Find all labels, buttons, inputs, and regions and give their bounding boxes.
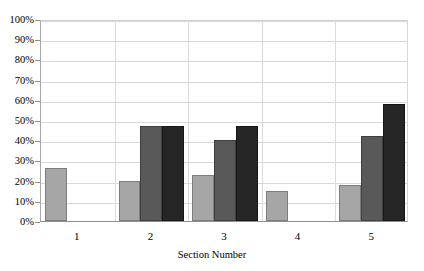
- y-axis-tick-label: 80%: [15, 55, 34, 66]
- y-axis-tick-label: 0%: [20, 217, 34, 228]
- x-axis-tick-label: 4: [295, 231, 301, 242]
- y-axis-tick-label: 10%: [15, 197, 34, 208]
- bar: [45, 168, 67, 221]
- y-axis-tick-label: 50%: [15, 116, 34, 127]
- bar: [236, 126, 258, 221]
- x-axis-tick-label: 5: [368, 231, 374, 242]
- y-axis-tick-label: 60%: [15, 96, 34, 107]
- y-axis-tick-label: 70%: [15, 75, 34, 86]
- clipped-chart-title: [0, 0, 424, 5]
- bar: [383, 104, 405, 221]
- bars-layer: [41, 21, 407, 221]
- x-axis-tick-label: 3: [221, 231, 227, 242]
- x-axis-tick-label: 2: [148, 231, 154, 242]
- y-axis-tick-label: 30%: [15, 156, 34, 167]
- bar: [192, 175, 214, 221]
- bar: [140, 126, 162, 221]
- y-axis-tick-label: 90%: [15, 35, 34, 46]
- bar: [266, 191, 288, 221]
- y-axis-tick-label: 40%: [15, 136, 34, 147]
- bar-chart: 0%10%20%30%40%50%60%70%80%90%100% Sectio…: [0, 0, 424, 271]
- bar: [339, 185, 361, 221]
- y-axis-tick-label: 100%: [10, 15, 35, 26]
- x-axis-title: Section Number: [0, 250, 424, 261]
- y-axis: 0%10%20%30%40%50%60%70%80%90%100%: [0, 0, 40, 271]
- y-axis-tick-label: 20%: [15, 176, 34, 187]
- x-axis-tick-label: 1: [74, 231, 80, 242]
- bar: [162, 126, 184, 221]
- bar: [214, 140, 236, 221]
- bar: [361, 136, 383, 221]
- bar: [119, 181, 141, 221]
- y-axis-tick: [35, 222, 40, 223]
- plot-area: [40, 20, 408, 222]
